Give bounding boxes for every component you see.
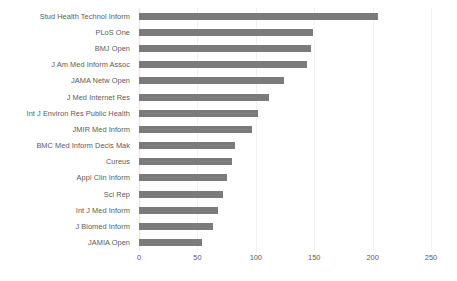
bar-row [139,138,431,154]
category-label-row: JAMIA Open [0,235,134,251]
bar-row [139,121,431,137]
bar-row [139,202,431,218]
category-label-row: Appl Clin Inform [0,170,134,186]
bar [139,61,307,68]
gridline [431,8,432,251]
bar-row [139,40,431,56]
value-axis-tick-label: 50 [193,253,201,263]
bar [139,45,311,52]
category-label-row: JAMA Netw Open [0,73,134,89]
bar [139,77,284,84]
category-label: J Med Internet Res [67,93,130,102]
bar [139,191,223,198]
value-axis-tick-label: 0 [137,253,141,263]
bar-row [139,105,431,121]
bar [139,13,378,20]
category-label-row: JMIR Med Inform [0,121,134,137]
value-axis-tick-label: 200 [366,253,378,263]
category-label-row: Stud Health Technol Inform [0,8,134,24]
category-label-row: Sci Rep [0,186,134,202]
category-label-row: Int J Med Inform [0,202,134,218]
category-label: PLoS One [95,28,130,37]
category-label-row: J Med Internet Res [0,89,134,105]
category-label-row: Cureus [0,154,134,170]
category-label-row: Int J Environ Res Public Health [0,105,134,121]
bar [139,207,218,214]
bar [139,142,235,149]
category-axis-labels: Stud Health Technol InformPLoS OneBMJ Op… [0,8,134,251]
category-label: Sci Rep [104,190,130,199]
bar-row [139,24,431,40]
category-label: Int J Environ Res Public Health [27,109,130,118]
category-label-row: BMJ Open [0,40,134,56]
category-label: JAMIA Open [88,238,130,247]
category-label: JAMA Netw Open [71,76,130,85]
category-label: Appl Clin Inform [77,173,130,182]
category-label-row: BMC Med Inform Decis Mak [0,138,134,154]
bar-series [139,8,431,251]
category-label: J Biomed Inform [75,222,130,231]
bar [139,239,202,246]
category-label: BMJ Open [95,44,130,53]
category-label: Cureus [106,157,130,166]
category-label-row: J Biomed Inform [0,218,134,234]
bar-row [139,154,431,170]
bar-row [139,186,431,202]
bar [139,174,227,181]
value-axis-tick-label: 250 [425,253,437,263]
category-label-row: PLoS One [0,24,134,40]
bar [139,158,232,165]
category-label: Stud Health Technol Inform [40,12,130,21]
bar-row [139,57,431,73]
value-axis-tick-label: 150 [308,253,320,263]
value-axis-tick-label: 100 [250,253,262,263]
bar [139,94,269,101]
bar-row [139,170,431,186]
bar-row [139,8,431,24]
bar-row [139,235,431,251]
bar-row [139,73,431,89]
bar [139,29,313,36]
category-label-row: J Am Med Inform Assoc [0,57,134,73]
category-label: Int J Med Inform [76,206,130,215]
category-label: JMIR Med Inform [73,125,130,134]
bar [139,110,258,117]
bar-chart: Stud Health Technol InformPLoS OneBMJ Op… [0,0,457,281]
bar [139,223,213,230]
bar-row [139,218,431,234]
bar [139,126,252,133]
category-label: BMC Med Inform Decis Mak [36,141,130,150]
plot-area [139,8,431,251]
value-axis-labels: 050100150200250 [139,253,431,271]
category-label: J Am Med Inform Assoc [51,60,130,69]
bar-row [139,89,431,105]
